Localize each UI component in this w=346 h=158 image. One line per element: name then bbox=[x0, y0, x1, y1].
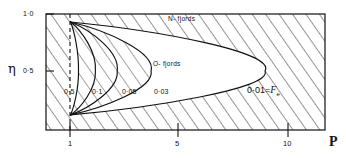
contour-label-0-1: 0·1 bbox=[92, 88, 102, 95]
x-tick-label-10: 10 bbox=[283, 140, 291, 148]
x-tick-label-5: 5 bbox=[175, 140, 179, 148]
y-axis-label: η bbox=[8, 62, 16, 75]
figure-container: 1·0 0·5 η 1 5 10 P N- fjords O- fjords 0… bbox=[0, 0, 346, 158]
fe-value: 0·01= bbox=[247, 85, 270, 95]
hatch-fill-inner bbox=[71, 22, 152, 115]
region-label-o-fjords: O- fjords bbox=[153, 61, 181, 68]
y-tick-label-1-0: 1·0 bbox=[23, 10, 34, 17]
contour-label-0-5: 0·5 bbox=[64, 88, 74, 95]
fe-subscript: e bbox=[276, 91, 279, 97]
contour-label-0-03: 0·03 bbox=[154, 88, 168, 95]
x-axis-label: P bbox=[329, 135, 338, 149]
region-label-n-fjords: N- fjords bbox=[168, 16, 195, 23]
contour-label-0-05: 0·05 bbox=[122, 88, 136, 95]
plot-canvas bbox=[0, 0, 346, 158]
fe-equation-label: 0·01=Fe bbox=[247, 85, 280, 97]
x-tick-label-1: 1 bbox=[68, 140, 72, 148]
y-tick-label-0-5: 0·5 bbox=[23, 67, 34, 74]
